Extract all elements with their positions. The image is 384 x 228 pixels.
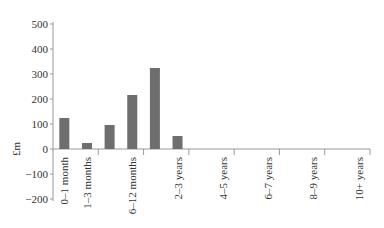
y-tick-label: 100 xyxy=(32,118,49,130)
y-tick-label: −200 xyxy=(25,193,48,205)
x-tick-label: 6–12 months xyxy=(126,157,138,214)
y-axis-label: £m xyxy=(10,142,22,157)
x-tick-label: 10+ years xyxy=(353,157,365,200)
y-tick-label: 200 xyxy=(32,93,49,105)
x-tick-label: 4–5 years xyxy=(217,157,229,199)
bar xyxy=(150,68,160,149)
bar xyxy=(105,125,115,149)
x-tick-label: 2–3 years xyxy=(172,157,184,199)
x-tick-label: 8–9 years xyxy=(307,157,319,199)
y-tick-label: 0 xyxy=(43,143,49,155)
y-tick-label: 500 xyxy=(32,18,49,30)
y-tick-label: −100 xyxy=(25,168,48,180)
bar xyxy=(59,118,69,149)
y-tick-label: 400 xyxy=(32,43,49,55)
y-tick-label: 300 xyxy=(32,68,49,80)
bar-chart: 5004003002001000−100−200£m0–1 month1–3 m… xyxy=(0,0,384,228)
bar xyxy=(82,143,92,149)
bar xyxy=(173,136,183,149)
x-tick-label: 6–7 years xyxy=(262,157,274,199)
bar xyxy=(127,95,137,149)
x-tick-label: 0–1 month xyxy=(58,157,70,205)
x-tick-label: 1–3 months xyxy=(81,157,93,209)
